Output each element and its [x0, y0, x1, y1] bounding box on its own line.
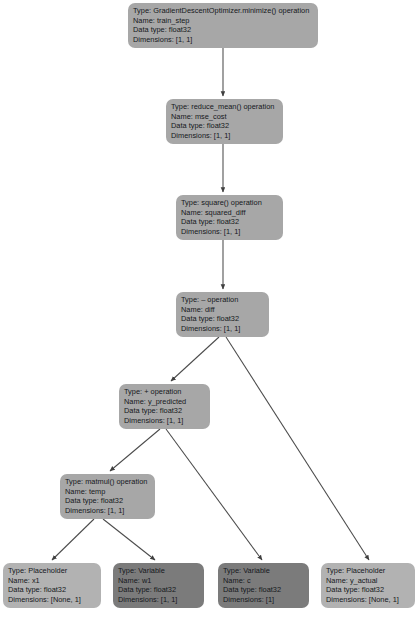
node-dtype-line: Data type: float32 [124, 406, 205, 416]
node-dtype-line: Data type: float32 [118, 585, 199, 595]
graph-node-x1[interactable]: Type: Placeholder Name: x1 Data type: fl… [3, 563, 101, 608]
node-name-line: Name: y_actual [326, 576, 410, 586]
edge-temp-to-w1 [103, 519, 155, 560]
graph-node-y-predicted[interactable]: Type: + operation Name: y_predicted Data… [119, 384, 210, 429]
node-dims-line: Dimensions: [1, 1] [124, 416, 205, 426]
node-type-line: Type: Placeholder [326, 566, 410, 576]
node-type-line: Type: + operation [124, 387, 205, 397]
node-dims-line: Dimensions: [1, 1] [181, 227, 278, 237]
graph-node-w1[interactable]: Type: Variable Name: w1 Data type: float… [113, 563, 204, 608]
edge-y_predicted-to-temp [110, 429, 160, 471]
graph-canvas: Type: GradientDescentOptimizer.minimize(… [0, 0, 418, 623]
node-name-line: Name: diff [181, 305, 264, 315]
node-dims-line: Dimensions: [None, 1] [326, 595, 410, 605]
node-type-line: Type: Variable [223, 566, 304, 576]
node-type-line: Type: square() operation [181, 198, 278, 208]
node-name-line: Name: mse_cost [171, 112, 278, 122]
node-dtype-line: Data type: float32 [171, 121, 278, 131]
node-name-line: Name: y_predicted [124, 397, 205, 407]
edge-diff-to-y_predicted [171, 337, 219, 381]
node-dims-line: Dimensions: [1, 1] [181, 324, 264, 334]
node-dims-line: Dimensions: [None, 1] [8, 595, 96, 605]
node-name-line: Name: w1 [118, 576, 199, 586]
node-dims-line: Dimensions: [1, 1] [171, 131, 278, 141]
node-type-line: Type: – operation [181, 295, 264, 305]
node-type-line: Type: GradientDescentOptimizer.minimize(… [133, 6, 313, 16]
node-name-line: Name: train_step [133, 16, 313, 26]
graph-node-y-actual[interactable]: Type: Placeholder Name: y_actual Data ty… [321, 563, 415, 608]
node-dtype-line: Data type: float32 [8, 585, 96, 595]
edge-temp-to-x1 [52, 519, 94, 560]
node-dtype-line: Data type: float32 [223, 585, 304, 595]
edge-y_predicted-to-c [166, 429, 262, 560]
node-name-line: Name: c [223, 576, 304, 586]
graph-node-train-step[interactable]: Type: GradientDescentOptimizer.minimize(… [128, 3, 318, 48]
node-dtype-line: Data type: float32 [65, 496, 150, 506]
node-dtype-line: Data type: float32 [133, 25, 313, 35]
node-dims-line: Dimensions: [1, 1] [118, 595, 199, 605]
node-dtype-line: Data type: float32 [181, 314, 264, 324]
node-name-line: Name: x1 [8, 576, 96, 586]
node-type-line: Type: Variable [118, 566, 199, 576]
node-type-line: Type: reduce_mean() operation [171, 102, 278, 112]
node-type-line: Type: matmul() operation [65, 477, 150, 487]
graph-node-mse-cost[interactable]: Type: reduce_mean() operation Name: mse_… [166, 99, 283, 144]
node-name-line: Name: squared_diff [181, 208, 278, 218]
node-dims-line: Dimensions: [1, 1] [133, 35, 313, 45]
node-dims-line: Dimensions: [1] [223, 595, 304, 605]
edge-diff-to-y_actual [226, 337, 369, 560]
graph-node-squared-diff[interactable]: Type: square() operation Name: squared_d… [176, 195, 283, 240]
node-dims-line: Dimensions: [1, 1] [65, 506, 150, 516]
node-name-line: Name: temp [65, 487, 150, 497]
graph-node-temp[interactable]: Type: matmul() operation Name: temp Data… [60, 474, 155, 519]
node-dtype-line: Data type: float32 [181, 217, 278, 227]
node-type-line: Type: Placeholder [8, 566, 96, 576]
graph-node-c[interactable]: Type: Variable Name: c Data type: float3… [218, 563, 309, 608]
graph-node-diff[interactable]: Type: – operation Name: diff Data type: … [176, 292, 269, 337]
node-dtype-line: Data type: float32 [326, 585, 410, 595]
